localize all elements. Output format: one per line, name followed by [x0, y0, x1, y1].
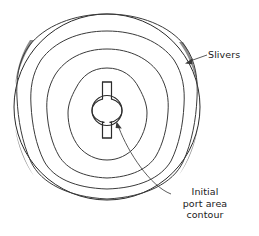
port-upper-slot	[103, 82, 112, 100]
burn-contour-4	[17, 14, 197, 199]
initial-port-label-line-2: port area	[168, 198, 242, 210]
grain-cross-section-figure: Slivers Initial port area contour	[0, 0, 259, 236]
initial-port-label-line-1: Initial	[168, 186, 242, 198]
initial-port-area-contour-label: Initial port area contour	[168, 186, 242, 221]
initial-port-label-line-3: contour	[168, 209, 242, 221]
motor-case-outer-circle	[14, 14, 200, 200]
slivers-arrowhead-icon	[185, 58, 193, 64]
initial-port-arrowhead-icon	[116, 122, 122, 129]
initial-port-area-contour	[92, 82, 122, 138]
port-lower-slot	[103, 122, 112, 139]
port-bore-circle	[92, 96, 122, 126]
port-detail-group	[92, 82, 122, 138]
sliver-group	[15, 40, 198, 176]
burn-contour-3	[31, 31, 184, 189]
slivers-leader-line	[190, 55, 207, 61]
slivers-label: Slivers	[208, 49, 240, 61]
